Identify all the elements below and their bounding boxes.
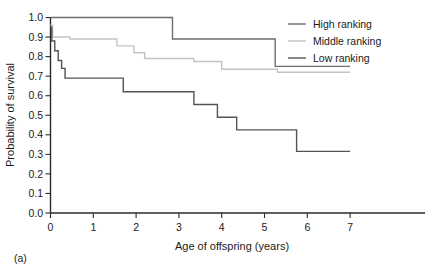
y-tick-label: 0.3: [28, 148, 43, 160]
x-tick-label: 4: [219, 221, 225, 233]
x-tick-label: 5: [262, 221, 268, 233]
y-tick-label: 0.9: [28, 31, 43, 43]
y-tick-label: 0.8: [28, 50, 43, 62]
x-tick-label: 2: [133, 221, 139, 233]
y-tick-label: 0.5: [28, 109, 43, 121]
y-tick-label: 0.7: [28, 70, 43, 82]
survival-curve-chart: 0.00.10.20.30.40.50.60.70.80.91.0 012345…: [0, 0, 435, 267]
y-tick-label: 0.4: [28, 128, 43, 140]
curve-middle-ranking: [51, 25, 351, 72]
x-tick-label: 6: [304, 221, 310, 233]
x-tick-label: 1: [90, 221, 96, 233]
y-tick-label: 0.6: [28, 89, 43, 101]
x-axis-ticks: 01234567: [48, 213, 354, 233]
y-axis-ticks: 0.00.10.20.30.40.50.60.70.80.91.0: [28, 11, 50, 219]
curve-high-ranking: [51, 18, 351, 67]
y-axis-title: Probability of survival: [4, 63, 16, 167]
figure-container: 0.00.10.20.30.40.50.60.70.80.91.0 012345…: [0, 0, 435, 267]
legend-label-2: Low ranking: [313, 52, 370, 64]
y-tick-label: 0.1: [28, 187, 43, 199]
chart-legend: High rankingMiddle rankingLow ranking: [288, 18, 381, 64]
x-tick-label: 7: [347, 221, 353, 233]
x-axis-title: Age of offspring (years): [175, 240, 289, 252]
x-tick-label: 0: [48, 221, 54, 233]
curve-low-ranking: [51, 27, 351, 151]
legend-label-1: Middle ranking: [313, 35, 381, 47]
legend-label-0: High ranking: [313, 18, 372, 30]
panel-label: (a): [14, 252, 27, 264]
x-tick-label: 3: [176, 221, 182, 233]
y-tick-label: 1.0: [28, 11, 43, 23]
y-tick-label: 0.2: [28, 168, 43, 180]
data-curves-group: [51, 18, 351, 152]
y-tick-label: 0.0: [28, 207, 43, 219]
